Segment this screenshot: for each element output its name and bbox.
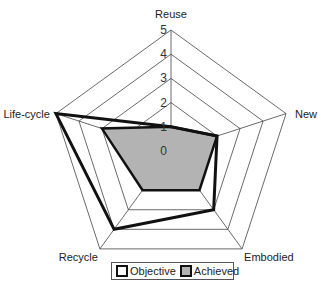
axis-label-recycle: Recycle — [59, 251, 98, 263]
achieved-swatch — [180, 265, 192, 277]
axis-label-life-cycle: Life-cycle — [3, 108, 49, 120]
chart-legend: Objective Achieved — [111, 262, 234, 280]
radar-chart: 012345ReuseNewEmbodiedRecycleLife-cycle — [0, 0, 318, 297]
legend-item-achieved: Achieved — [180, 265, 239, 277]
legend-label-achieved: Achieved — [194, 265, 239, 277]
axis-label-reuse: Reuse — [155, 8, 187, 20]
axis-label-embodied: Embodied — [244, 251, 294, 263]
tick-label-0: 0 — [160, 144, 167, 158]
legend-item-objective: Objective — [116, 265, 176, 277]
objective-swatch — [116, 265, 128, 277]
legend-label-objective: Objective — [130, 265, 176, 277]
tick-label-1: 1 — [160, 120, 167, 134]
tick-label-5: 5 — [160, 23, 167, 37]
tick-label-4: 4 — [160, 47, 167, 61]
tick-label-2: 2 — [160, 96, 167, 110]
tick-label-3: 3 — [160, 71, 167, 85]
axis-label-new: New — [295, 108, 317, 120]
